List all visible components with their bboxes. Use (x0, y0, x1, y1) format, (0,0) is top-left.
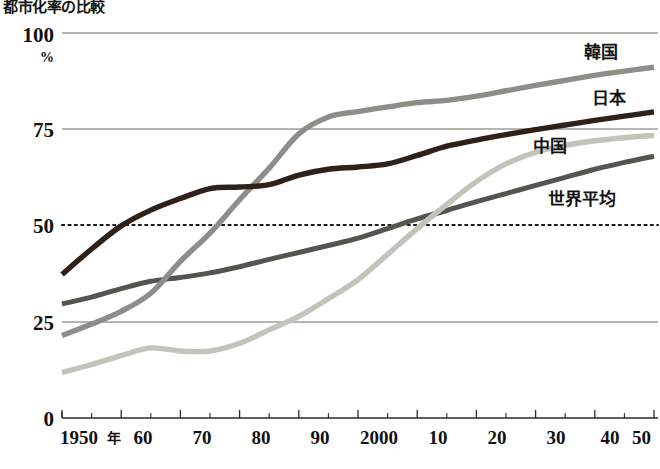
y-label-25: 25 (33, 311, 54, 335)
x-label-50: 50 (632, 427, 651, 448)
x-label-70: 70 (193, 427, 212, 448)
x-label-90: 90 (311, 427, 330, 448)
series-label-korea: 韓国 (584, 42, 618, 62)
x-label-2000: 2000 (360, 427, 398, 448)
series-label-world: 世界平均 (548, 189, 616, 209)
y-label-75: 75 (33, 118, 54, 142)
y-axis-labels-group: 100 % 75 50 25 0 (23, 23, 55, 431)
x-tick-marks-group (62, 410, 654, 418)
x-label-30: 30 (547, 427, 566, 448)
x-axis-labels-group: 1950 年 60 70 80 90 2000 10 20 30 40 50 (60, 427, 651, 448)
chart-container: 都市化率の比較 (0, 0, 660, 469)
x-label-1950: 1950 (60, 427, 98, 448)
y-label-unit: % (40, 50, 54, 65)
x-label-10: 10 (429, 427, 448, 448)
y-label-50: 50 (33, 214, 54, 238)
y-label-100: 100 (23, 23, 55, 47)
series-label-china: 中国 (533, 136, 567, 156)
urbanization-line-chart: 100 % 75 50 25 0 1950 年 60 70 80 90 2000… (0, 0, 660, 469)
axes-group (62, 412, 658, 418)
x-label-1950-suffix: 年 (107, 430, 121, 446)
x-label-60: 60 (134, 427, 153, 448)
y-label-0: 0 (44, 407, 55, 431)
data-series-group (62, 67, 654, 372)
series-label-japan: 日本 (592, 88, 626, 108)
x-label-20: 20 (488, 427, 507, 448)
x-label-80: 80 (252, 427, 271, 448)
series-line-china (62, 135, 654, 372)
x-label-40: 40 (601, 427, 620, 448)
